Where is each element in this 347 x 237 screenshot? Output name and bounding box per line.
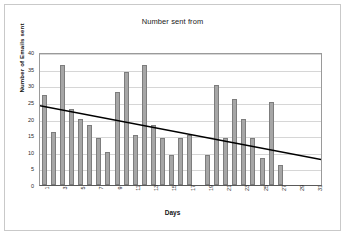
bar[interactable]	[133, 135, 138, 185]
bar-slot	[212, 54, 221, 185]
x-axis-slot	[103, 187, 112, 209]
x-axis-slot: 13	[149, 187, 158, 209]
bar-slot	[85, 54, 94, 185]
x-axis-tick-label: 31	[317, 185, 323, 191]
x-axis-slot: 19	[203, 187, 212, 209]
bar-slot	[103, 54, 112, 185]
bar[interactable]	[160, 138, 165, 185]
bar[interactable]	[42, 95, 47, 185]
bar-slot	[203, 54, 212, 185]
x-axis-slot	[194, 187, 203, 209]
bar-slot	[167, 54, 176, 185]
bar-slot	[49, 54, 58, 185]
bar-slot	[158, 54, 167, 185]
x-axis-slot: 7	[94, 187, 103, 209]
x-axis-slot: 27	[276, 187, 285, 209]
bar[interactable]	[278, 165, 283, 185]
x-axis-slot	[121, 187, 130, 209]
bar[interactable]	[205, 155, 210, 185]
bar-slot	[303, 54, 312, 185]
x-axis-slot: 5	[76, 187, 85, 209]
bar-slot	[131, 54, 140, 185]
bar[interactable]	[151, 125, 156, 185]
bar[interactable]	[142, 65, 147, 185]
bar[interactable]	[105, 152, 110, 185]
bar-slot	[176, 54, 185, 185]
bar-slot	[294, 54, 303, 185]
bar-slot	[76, 54, 85, 185]
bar[interactable]	[232, 99, 237, 185]
x-axis-slot	[231, 187, 240, 209]
y-axis-tick-label: 30	[28, 83, 34, 89]
y-axis-tick-label: 5	[31, 166, 34, 172]
x-axis-slot	[139, 187, 148, 209]
y-axis-tick-label: 10	[28, 150, 34, 156]
x-axis-slot: 9	[112, 187, 121, 209]
y-axis-tick-label: 20	[28, 117, 34, 123]
bar-slot	[122, 54, 131, 185]
x-axis-slot	[267, 187, 276, 209]
bar-slot	[312, 54, 321, 185]
bar-slot	[248, 54, 257, 185]
x-axis-slot: 3	[57, 187, 66, 209]
chart-title: Number sent from	[5, 17, 340, 26]
bar[interactable]	[260, 158, 265, 185]
bar[interactable]	[169, 155, 174, 185]
x-axis-slot: 21	[222, 187, 231, 209]
bar-slot	[239, 54, 248, 185]
x-axis-slot	[158, 187, 167, 209]
y-axis-tick-labels: 0510152025303540	[5, 53, 37, 186]
y-axis-tick-label: 15	[28, 133, 34, 139]
x-axis-slot: 29	[295, 187, 304, 209]
bar-slot	[140, 54, 149, 185]
x-axis-slot	[66, 187, 75, 209]
bar[interactable]	[223, 138, 228, 185]
x-axis-slot	[304, 187, 313, 209]
bar[interactable]	[51, 132, 56, 185]
x-axis-slot: 17	[185, 187, 194, 209]
y-axis-tick-label: 35	[28, 67, 34, 73]
bar-slot	[149, 54, 158, 185]
y-axis-tick-label: 40	[28, 50, 34, 56]
x-axis-slot	[212, 187, 221, 209]
bar-slot	[185, 54, 194, 185]
bar[interactable]	[115, 92, 120, 185]
bar[interactable]	[78, 119, 83, 186]
bar[interactable]	[124, 72, 129, 185]
bar-slot	[58, 54, 67, 185]
bar-series	[40, 54, 321, 185]
x-axis-slot	[249, 187, 258, 209]
bar-slot	[258, 54, 267, 185]
bar[interactable]	[241, 119, 246, 186]
x-axis-title: Days	[5, 209, 340, 216]
bar-slot	[221, 54, 230, 185]
bar-slot	[67, 54, 76, 185]
bar-slot	[285, 54, 294, 185]
bar-slot	[194, 54, 203, 185]
plot-area	[39, 53, 322, 186]
bar[interactable]	[87, 125, 92, 185]
bar[interactable]	[269, 102, 274, 185]
bar-slot	[267, 54, 276, 185]
bar-slot	[276, 54, 285, 185]
x-axis-slot: 1	[39, 187, 48, 209]
bar[interactable]	[96, 138, 101, 185]
x-axis-slot	[285, 187, 294, 209]
x-axis-slot	[48, 187, 57, 209]
bar[interactable]	[214, 85, 219, 185]
bar[interactable]	[187, 135, 192, 185]
bar[interactable]	[178, 138, 183, 185]
bar[interactable]	[250, 138, 255, 185]
bar-slot	[230, 54, 239, 185]
bar[interactable]	[60, 65, 65, 185]
bar-slot	[94, 54, 103, 185]
x-axis-slot: 31	[313, 187, 322, 209]
chart-container: Number sent from Number of Emails sent 0…	[4, 4, 341, 231]
x-axis-slot: 11	[130, 187, 139, 209]
x-axis-slot	[176, 187, 185, 209]
y-axis-tick-label: 25	[28, 100, 34, 106]
bar[interactable]	[69, 109, 74, 185]
x-axis-tick-labels: 135791113151719212325272931	[39, 187, 322, 209]
y-axis-tick-label: 0	[31, 183, 34, 189]
x-axis-slot: 15	[167, 187, 176, 209]
